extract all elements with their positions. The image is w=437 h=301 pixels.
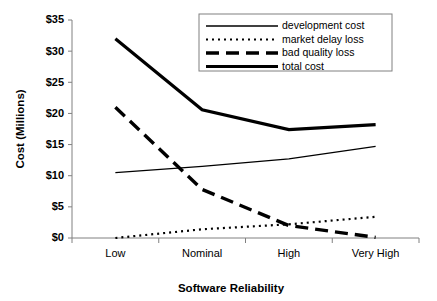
series-market-delay-loss (115, 217, 375, 238)
y-tick-group (68, 20, 72, 238)
x-tick-label: High (278, 247, 301, 259)
y-tick-label: $20 (46, 107, 64, 119)
series-development-cost (115, 146, 375, 172)
y-tick-label: $10 (46, 169, 64, 181)
x-tick-group (72, 238, 419, 243)
x-axis-title: Software Reliability (178, 282, 285, 294)
chart-canvas: $0$5$10$15$20$25$30$35 LowNominalHighVer… (0, 0, 437, 301)
legend-label-2: bad quality loss (282, 46, 354, 58)
x-tick-label: Low (105, 247, 125, 259)
legend-label-3: total cost (282, 60, 324, 72)
legend-label-0: development cost (282, 19, 364, 31)
y-tick-label: $5 (52, 200, 64, 212)
cost-vs-reliability-chart: $0$5$10$15$20$25$30$35 LowNominalHighVer… (0, 0, 437, 301)
y-tick-label: $30 (46, 45, 64, 57)
legend-label-1: market delay loss (282, 33, 364, 45)
y-axis-title: Cost (Millions) (14, 89, 26, 168)
y-tick-label: $0 (52, 231, 64, 243)
x-tick-label-group: LowNominalHighVery High (105, 247, 399, 259)
y-tick-label-group: $0$5$10$15$20$25$30$35 (46, 13, 64, 243)
chart-legend: development costmarket delay lossbad qua… (199, 14, 392, 72)
y-tick-label: $15 (46, 138, 64, 150)
x-tick-label: Nominal (182, 247, 222, 259)
y-tick-label: $35 (46, 13, 64, 25)
x-tick-label: Very High (352, 247, 400, 259)
y-tick-label: $25 (46, 76, 64, 88)
